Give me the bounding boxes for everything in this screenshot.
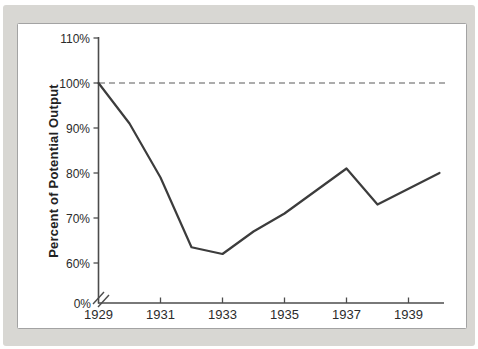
y-tick-label: 80% bbox=[66, 167, 90, 181]
y-tick-label: 70% bbox=[66, 212, 90, 226]
x-tick-label: 1939 bbox=[394, 307, 423, 322]
x-tick-label: 1937 bbox=[332, 307, 361, 322]
x-tick-label: 1929 bbox=[84, 307, 113, 322]
y-tick-label: 90% bbox=[66, 122, 90, 136]
x-tick-label: 1935 bbox=[270, 307, 299, 322]
economic-output-figure: Percent of Potential Output 110%100%90%8… bbox=[0, 0, 478, 349]
x-tick-label: 1931 bbox=[146, 307, 175, 322]
y-tick-label: 60% bbox=[66, 257, 90, 271]
x-tick-label: 1933 bbox=[208, 307, 237, 322]
line-chart: Percent of Potential Output 110%100%90%8… bbox=[0, 0, 478, 349]
y-tick-label: 110% bbox=[60, 32, 90, 46]
y-axis-title: Percent of Potential Output bbox=[46, 84, 61, 258]
y-tick-label: 100% bbox=[59, 77, 90, 91]
